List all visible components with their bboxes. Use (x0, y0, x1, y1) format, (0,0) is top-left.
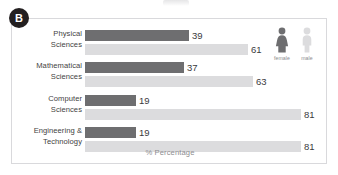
bar-female[interactable] (85, 62, 184, 73)
category-label-line: Sciences (12, 40, 82, 51)
bar-value-female: 39 (192, 29, 203, 42)
x-axis-label: % Percentage (12, 148, 328, 157)
bar-male[interactable] (85, 44, 248, 55)
category-label-line: Mathematical (12, 61, 82, 72)
category-label: Mathematical Sciences (12, 61, 82, 82)
bar-value-male: 81 (304, 108, 315, 121)
category-label: Computer Sciences (12, 94, 82, 115)
category-label-line: Sciences (12, 105, 82, 116)
panel-label-badge: B (9, 8, 29, 28)
category-label: Engineering & Technology (12, 126, 82, 147)
bar-female[interactable] (85, 95, 136, 106)
category-label-line: Sciences (12, 72, 82, 83)
female-pictogram-icon (274, 27, 290, 53)
bar-value-male: 61 (251, 43, 262, 56)
category-label-line: Physical (12, 29, 82, 40)
bar-value-female: 19 (139, 94, 150, 107)
legend-label-male: male (295, 55, 319, 62)
chart-legend: female male (269, 27, 321, 69)
legend-item-female[interactable]: female (270, 27, 294, 67)
category-label: Physical Sciences (12, 29, 82, 50)
category-label-line: Technology (12, 137, 82, 148)
category-label-line: Engineering & (12, 126, 82, 137)
bar-row-male: 81 (85, 109, 328, 120)
chart-group: Computer Sciences 19 81 (12, 94, 328, 122)
bar-row-female: 19 (85, 127, 328, 138)
category-label-line: Computer (12, 94, 82, 105)
bar-value-male: 63 (256, 75, 267, 88)
bar-chart-plot: Physical Sciences 39 61 Math (12, 19, 328, 165)
bar-male[interactable] (85, 76, 253, 87)
bar-value-female: 19 (139, 126, 150, 139)
legend-label-female: female (270, 55, 294, 62)
chart-panel: Physical Sciences 39 61 Math (11, 18, 327, 164)
scan-artifact (163, 0, 189, 6)
legend-item-male[interactable]: male (295, 27, 319, 67)
bar-female[interactable] (85, 30, 189, 41)
bar-female[interactable] (85, 127, 136, 138)
bar-row-male: 63 (85, 76, 328, 87)
bar-value-female: 37 (187, 61, 198, 74)
male-pictogram-icon (299, 27, 315, 53)
bar-pair: 19 81 (85, 94, 328, 122)
bar-row-female: 19 (85, 95, 328, 106)
figure-root: B Physical Sciences 39 61 (0, 0, 338, 175)
bar-male[interactable] (85, 109, 301, 120)
